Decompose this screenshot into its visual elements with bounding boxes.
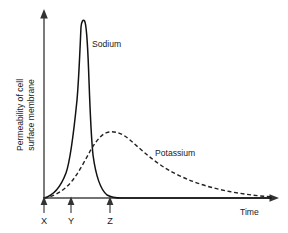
- y-axis: [40, 9, 48, 198]
- marker-x-label: X: [41, 216, 47, 226]
- marker-z-label: Z: [107, 216, 113, 226]
- marker-y: Y: [68, 197, 75, 227]
- y-axis-title-line1: Permeability of cell: [15, 79, 25, 151]
- marker-y-label: Y: [68, 216, 74, 226]
- marker-z: Z: [107, 197, 114, 227]
- potassium-series-label: Potassium: [155, 148, 195, 158]
- permeability-time-graph: X Y Z Sodium Potassium Time Permeability…: [0, 0, 288, 233]
- marker-x: X: [41, 197, 48, 227]
- sodium-series-label: Sodium: [92, 39, 121, 49]
- y-axis-title-line2: surface membrane: [26, 79, 36, 151]
- y-axis-arrowhead-icon: [40, 9, 48, 19]
- x-axis-title: Time: [240, 207, 259, 217]
- y-axis-title: Permeability of cell surface membrane: [15, 79, 36, 151]
- potassium-curve: [44, 132, 271, 198]
- plot-svg: X Y Z Sodium Potassium Time Permeability…: [0, 0, 288, 233]
- sodium-curve: [44, 20, 271, 198]
